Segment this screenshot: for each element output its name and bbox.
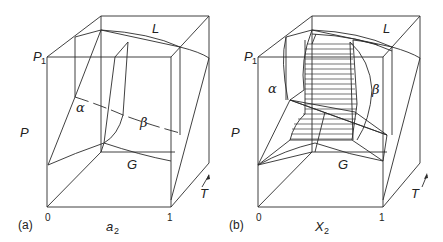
- panel-b-p1-marker: P 1: [244, 49, 257, 66]
- panel-b-phase-surfaces: [258, 30, 420, 200]
- panel-b-tick-0: 0: [256, 212, 262, 223]
- panel-a-y-axis-label: P: [20, 125, 29, 140]
- panel-a-t-arrowhead-icon: [206, 174, 210, 180]
- svg-text:2: 2: [324, 226, 329, 236]
- panel-b-label-liquid: L: [383, 21, 390, 36]
- panel-b-t-arrowhead-icon: [424, 173, 428, 179]
- panel-a-label-gas: G: [127, 157, 137, 172]
- panel-b: L G α β P P 1 T 0 1 X 2 (b): [229, 16, 428, 236]
- panel-a-phase-surfaces: [48, 30, 209, 200]
- svg-text:1: 1: [41, 56, 46, 66]
- panel-b-x-axis-label: X 2: [314, 219, 329, 236]
- panel-b-label-gas: G: [338, 157, 348, 172]
- panel-b-tick-1: 1: [379, 212, 385, 223]
- panel-a-label: (a): [18, 218, 33, 232]
- panel-a-label-alpha: α: [76, 100, 85, 115]
- panel-b-cube: [258, 16, 420, 207]
- panel-a-tick-1: 1: [167, 212, 173, 223]
- panel-b-label-alpha: α: [268, 81, 277, 96]
- svg-text:T: T: [200, 186, 209, 201]
- panel-a-tick-0: 0: [45, 212, 51, 223]
- svg-text:1: 1: [252, 56, 257, 66]
- panel-a-x-axis-label: a 2: [106, 219, 119, 236]
- svg-text:a: a: [106, 219, 113, 234]
- panel-b-label-beta: β: [371, 82, 380, 97]
- panel-b-y-axis-label: P: [231, 125, 240, 140]
- panel-a-depth-axis: T: [200, 174, 210, 201]
- phase-diagram-figure: L G α β P P 1 T 0 1 a 2 (a): [0, 0, 443, 242]
- panel-a-label-beta: β: [139, 115, 148, 130]
- svg-text:T: T: [411, 186, 420, 201]
- panel-a-p1-marker: P 1: [33, 49, 46, 66]
- svg-text:2: 2: [114, 226, 119, 236]
- panel-a: L G α β P P 1 T 0 1 a 2 (a): [18, 16, 210, 236]
- panel-b-depth-axis: T: [411, 173, 428, 201]
- panel-b-label: (b): [229, 218, 244, 232]
- panel-a-label-liquid: L: [152, 21, 159, 36]
